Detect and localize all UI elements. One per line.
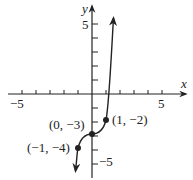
y-tick-label-neg5: −5 [99, 154, 113, 169]
point-1-neg2 [103, 117, 109, 123]
point-0-neg3 [89, 131, 95, 137]
y-tick-label-5: 5 [82, 17, 89, 32]
point-label-1-neg2: (1, −2) [112, 112, 148, 127]
y-axis-label: y [80, 1, 88, 16]
point-label-neg1-neg4: (−1, −4) [27, 140, 70, 155]
cubic-graph: y x 5 −5 5 −5 (−1, −4) (0, −3) (1, −2) [0, 0, 193, 180]
x-tick-label-5: 5 [158, 96, 165, 111]
x-axis-label: x [180, 76, 187, 91]
x-tick-label-neg5: −5 [10, 96, 24, 111]
point-label-0-neg3: (0, −3) [49, 117, 85, 132]
point-neg1-neg4 [75, 145, 81, 151]
